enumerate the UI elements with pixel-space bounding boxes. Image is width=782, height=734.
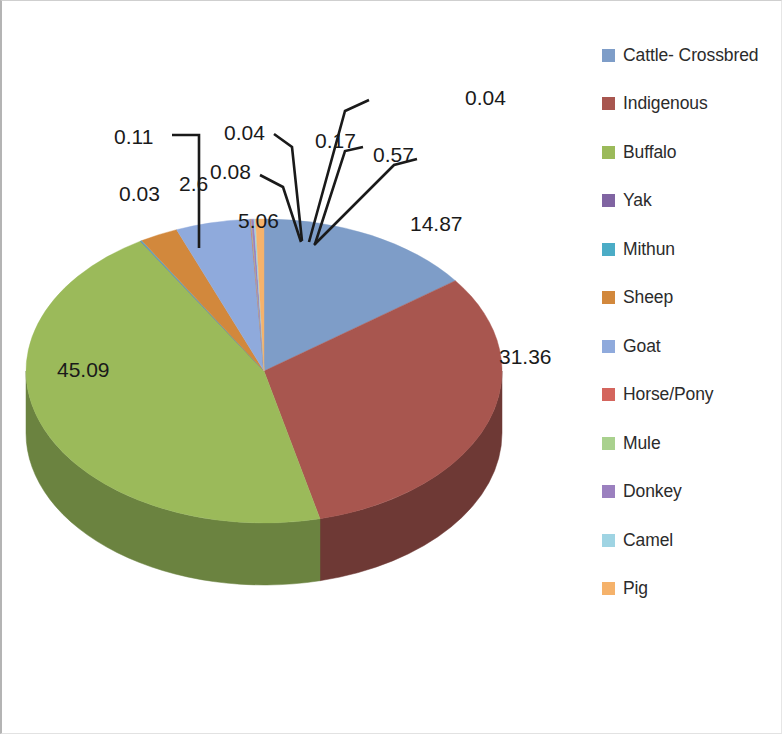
pie-data-label: 0.11: [114, 126, 153, 147]
pie-data-label: 0.04: [224, 122, 265, 143]
legend-swatch-icon: [602, 243, 615, 256]
pie-data-label: 0.04: [465, 87, 506, 108]
legend-swatch-icon: [602, 534, 615, 547]
legend-swatch-icon: [602, 340, 615, 353]
pie-data-label: 14.87: [410, 213, 463, 234]
pie-data-label: 0.03: [119, 183, 160, 204]
legend-swatch-icon: [602, 291, 615, 304]
legend-item-yak[interactable]: Yak: [602, 177, 782, 226]
legend-swatch-icon: [602, 437, 615, 450]
legend-item-label: Donkey: [623, 481, 682, 502]
legend-item-label: Sheep: [623, 287, 673, 308]
chart-legend: Cattle- CrossbredIndigenousBuffaloYakMit…: [602, 31, 782, 631]
legend-swatch-icon: [602, 485, 615, 498]
legend-item-label: Pig: [623, 578, 648, 599]
pie-data-label: 0.57: [373, 144, 414, 165]
legend-item-label: Indigenous: [623, 93, 708, 114]
legend-item-mule[interactable]: Mule: [602, 419, 782, 468]
chart-frame: 0.040.110.040.170.570.032.60.085.0614.87…: [0, 0, 782, 734]
pie-chart-plot-area: 0.040.110.040.170.570.032.60.085.0614.87…: [2, 1, 602, 734]
legend-item-cattle-crossbred[interactable]: Cattle- Crossbred: [602, 31, 782, 80]
legend-item-label: Goat: [623, 336, 661, 357]
legend-item-label: Buffalo: [623, 142, 676, 163]
legend-item-label: Cattle- Crossbred: [623, 45, 758, 66]
pie-data-label: 0.17: [315, 130, 356, 151]
legend-item-goat[interactable]: Goat: [602, 322, 782, 371]
legend-item-indigenous[interactable]: Indigenous: [602, 80, 782, 129]
legend-item-buffalo[interactable]: Buffalo: [602, 128, 782, 177]
pie-data-label: 2.6: [179, 173, 208, 194]
legend-swatch-icon: [602, 582, 615, 595]
legend-item-label: Horse/Pony: [623, 384, 713, 405]
legend-item-horse-pony[interactable]: Horse/Pony: [602, 371, 782, 420]
legend-item-camel[interactable]: Camel: [602, 516, 782, 565]
pie-data-label: 45.09: [57, 359, 110, 380]
legend-item-donkey[interactable]: Donkey: [602, 468, 782, 517]
legend-swatch-icon: [602, 146, 615, 159]
legend-item-sheep[interactable]: Sheep: [602, 274, 782, 323]
legend-swatch-icon: [602, 194, 615, 207]
legend-item-label: Camel: [623, 530, 673, 551]
pie-data-label: 31.36: [499, 346, 552, 367]
legend-item-label: Yak: [623, 190, 652, 211]
legend-item-pig[interactable]: Pig: [602, 565, 782, 614]
legend-swatch-icon: [602, 388, 615, 401]
legend-item-label: Mithun: [623, 239, 675, 260]
legend-item-mithun[interactable]: Mithun: [602, 225, 782, 274]
legend-swatch-icon: [602, 97, 615, 110]
legend-swatch-icon: [602, 49, 615, 62]
pie-data-label: 5.06: [238, 210, 279, 231]
legend-item-label: Mule: [623, 433, 661, 454]
pie-data-label: 0.08: [210, 161, 251, 182]
